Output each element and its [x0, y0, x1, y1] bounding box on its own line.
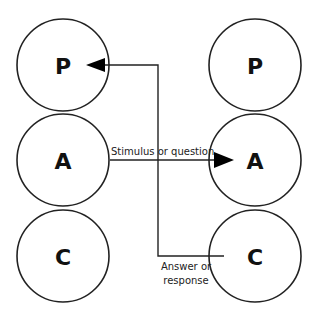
right-child-label: C [247, 245, 263, 270]
right-parent-label: P [247, 54, 263, 79]
right-adult-label: A [246, 149, 263, 174]
left-parent-label: P [55, 54, 71, 79]
stimulus-arrow: Stimulus or question [110, 146, 234, 168]
arrowhead-right-icon [214, 152, 234, 168]
left-ego-states: P A C [17, 19, 109, 302]
left-adult-label: A [54, 149, 71, 174]
arrowhead-left-icon [86, 58, 105, 72]
pac-transaction-diagram: P A C P A C Stimulus or question Answer … [0, 0, 312, 316]
response-label-line1: Answer or [161, 261, 212, 272]
stimulus-label: Stimulus or question [111, 146, 214, 157]
response-label-line2: response [163, 275, 208, 286]
left-child-label: C [55, 245, 71, 270]
